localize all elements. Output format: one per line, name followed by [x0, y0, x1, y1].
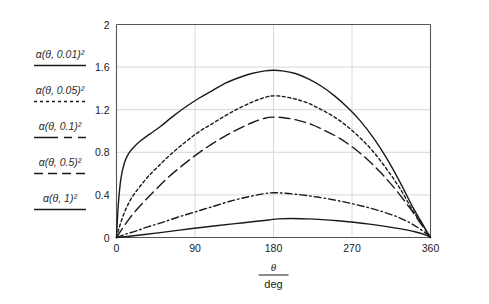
x-label-denominator: deg — [264, 278, 282, 290]
x-tick-label-4: 360 — [422, 242, 440, 254]
chart-x-axis-label: θdeg — [259, 261, 289, 290]
x-label-numerator: θ — [271, 261, 277, 273]
chart-plot-area: 00.40.81.21.62090180270360 θdeg — [0, 0, 489, 304]
y-tick-label-4: 1.6 — [95, 61, 110, 73]
y-tick-label-2: 0.8 — [95, 146, 110, 158]
x-tick-label-0: 0 — [114, 242, 120, 254]
x-tick-label-2: 180 — [265, 242, 283, 254]
y-tick-label-5: 2 — [104, 19, 110, 31]
chart-figure: α(θ, 0.01)² α(θ, 0.05)² α(θ, 0.1)² α(θ, … — [0, 0, 489, 304]
y-tick-label-0: 0 — [104, 232, 110, 244]
chart-gridlines — [117, 25, 431, 238]
y-tick-label-1: 0.4 — [95, 189, 110, 201]
x-tick-label-3: 270 — [343, 242, 361, 254]
y-tick-label-3: 1.2 — [95, 104, 110, 116]
x-tick-label-1: 90 — [189, 242, 201, 254]
